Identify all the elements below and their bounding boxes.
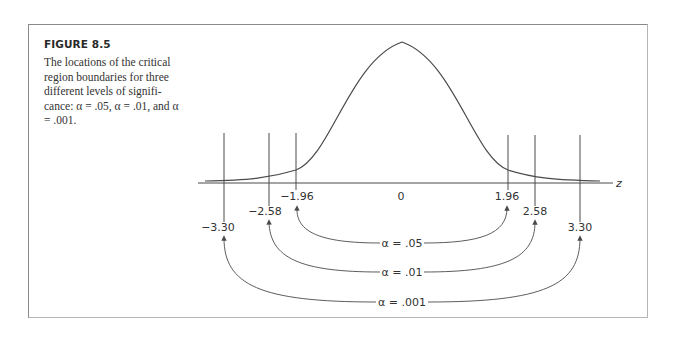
normal-curve: [205, 42, 600, 181]
arc-alpha-01-right: [424, 222, 535, 272]
arc-alpha-01-left: [269, 222, 380, 272]
label-1-96: 1.96: [495, 190, 520, 203]
label-neg-3-30: −3.30: [201, 221, 235, 234]
label-alpha-01: α = .01: [382, 266, 423, 279]
z-axis-label: z: [615, 177, 622, 190]
arc-alpha-05-left: [297, 208, 380, 243]
label-center-0: 0: [398, 190, 405, 203]
label-alpha-05: α = .05: [382, 237, 423, 250]
normal-distribution-diagram: z −1.96 0 1.96 −2.58 2.58 −3.30 3.30 α =…: [0, 0, 682, 341]
label-neg-2-58: −2.58: [248, 205, 282, 218]
arc-alpha-001-right: [428, 238, 580, 302]
label-alpha-001: α = .001: [378, 296, 426, 309]
label-2-58: 2.58: [523, 205, 548, 218]
label-neg-1-96: −1.96: [280, 190, 314, 203]
label-3-30: 3.30: [568, 221, 593, 234]
arc-alpha-05-right: [424, 208, 507, 243]
arc-alpha-001-left: [224, 238, 376, 302]
